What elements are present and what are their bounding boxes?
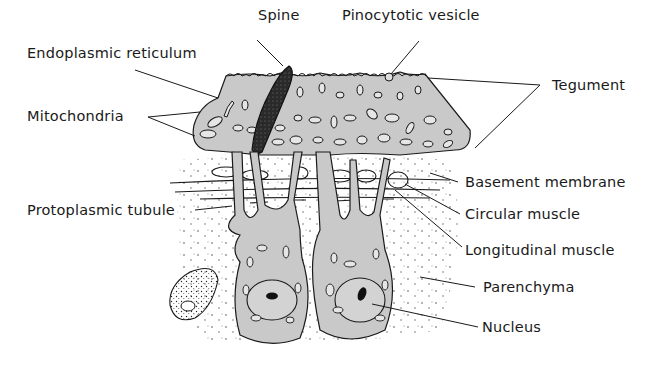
label-spine: Spine <box>258 8 300 23</box>
label-tegument: Tegument <box>552 78 625 93</box>
label-pinocytotic-vesicle: Pinocytotic vesicle <box>342 8 480 23</box>
leader-spine <box>257 40 283 66</box>
leader-pinocytotic-vesicle <box>391 41 419 74</box>
label-basement-membrane: Basement membrane <box>465 175 626 190</box>
label-circular-muscle: Circular muscle <box>465 207 580 222</box>
label-parenchyma: Parenchyma <box>483 280 575 295</box>
label-mitochondria: Mitochondria <box>27 109 124 124</box>
leader-mitochondria <box>148 112 200 136</box>
leader-endoplasmic-reticulum <box>135 70 218 98</box>
label-protoplasmic-tubule: Protoplasmic tubule <box>27 203 175 218</box>
label-longitudinal-muscle: Longitudinal muscle <box>465 243 615 258</box>
label-nucleus: Nucleus <box>482 320 541 335</box>
tegument-diagram: Spine Pinocytotic vesicle Endoplasmic re… <box>0 0 659 365</box>
label-endoplasmic-reticulum: Endoplasmic reticulum <box>27 46 197 61</box>
